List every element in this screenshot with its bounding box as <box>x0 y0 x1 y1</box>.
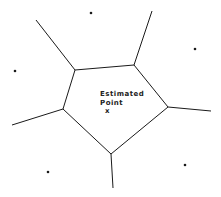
site-point <box>90 12 93 15</box>
site-point <box>184 164 187 167</box>
ray-right <box>168 107 211 111</box>
estimated-point-cell <box>63 65 168 154</box>
site-point <box>14 70 17 73</box>
voronoi-diagram: Estimated Point x <box>0 0 221 197</box>
ray-top-right <box>134 11 152 65</box>
site-point <box>194 48 197 51</box>
ray-top-left <box>36 20 75 70</box>
ray-bottom <box>111 154 113 188</box>
estimated-label-line2: Point <box>100 99 123 107</box>
estimated-point-marker: x <box>105 107 110 115</box>
site-point <box>47 171 50 174</box>
ray-left <box>12 109 63 125</box>
estimated-label-line1: Estimated <box>100 90 144 98</box>
